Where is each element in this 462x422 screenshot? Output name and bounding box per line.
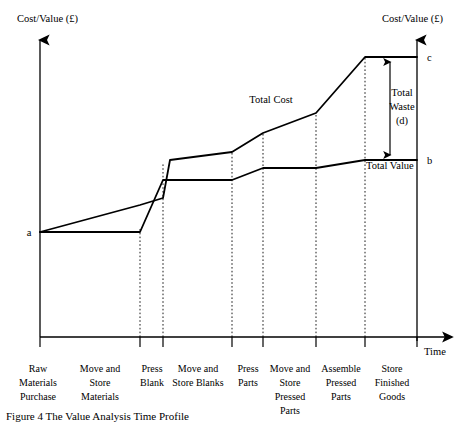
chart-canvas: Cost/Value (£) Cost/Value (£) Time a b c… bbox=[0, 0, 462, 422]
figure-caption: Figure 4 The Value Analysis Time Profile bbox=[6, 410, 189, 422]
x-label-line: Store bbox=[279, 377, 301, 388]
x-label-move-and-store-materials: Move and Store Materials bbox=[80, 363, 120, 402]
total-cost-label: Total Cost bbox=[249, 94, 292, 105]
marker-c: c bbox=[427, 52, 432, 63]
marker-b: b bbox=[427, 155, 432, 166]
x-label-move-and-store-blanks: Move and Store Blanks bbox=[172, 363, 223, 388]
total-waste-label-line1: Total bbox=[391, 87, 413, 98]
x-label-assemble-pressed-parts: Assemble Pressed Parts bbox=[321, 363, 361, 402]
x-label-line: Press bbox=[237, 363, 258, 374]
x-label-line: Assemble bbox=[321, 363, 361, 374]
x-label-line: Blank bbox=[140, 377, 164, 388]
x-label-line: Parts bbox=[280, 405, 300, 416]
x-label-move-and-store-pressed-parts: Move and Store Pressed Parts bbox=[270, 363, 310, 416]
value-analysis-time-profile-figure: Cost/Value (£) Cost/Value (£) Time a b c… bbox=[0, 0, 462, 422]
x-axis-title: Time bbox=[424, 346, 446, 357]
marker-a: a bbox=[27, 227, 32, 238]
x-label-line: Move and bbox=[270, 363, 310, 374]
total-waste-label-line2: Waste bbox=[389, 101, 415, 112]
x-label-press-blank: Press Blank bbox=[140, 363, 164, 388]
x-label-raw-materials-purchase: Raw Materials Purchase bbox=[19, 363, 57, 402]
x-label-line: Materials bbox=[81, 391, 119, 402]
x-label-line: Pressed bbox=[326, 377, 357, 388]
x-axis-ticks bbox=[40, 337, 417, 347]
x-label-line: Move and bbox=[80, 363, 120, 374]
x-label-line: Store bbox=[381, 363, 403, 374]
total-cost-line bbox=[40, 57, 417, 232]
x-label-store-finished-goods: Store Finished Goods bbox=[375, 363, 409, 402]
y-axis-left-title: Cost/Value (£) bbox=[17, 13, 78, 25]
x-axis-category-labels: Raw Materials Purchase Move and Store Ma… bbox=[19, 363, 409, 416]
x-label-line: Goods bbox=[379, 391, 405, 402]
x-label-line: Parts bbox=[331, 391, 351, 402]
x-label-line: Pressed bbox=[275, 391, 306, 402]
total-value-line bbox=[40, 160, 417, 232]
x-label-line: Finished bbox=[375, 377, 409, 388]
y-axis-right-title: Cost/Value (£) bbox=[382, 13, 443, 25]
x-label-line: Store bbox=[89, 377, 111, 388]
x-label-line: Press bbox=[141, 363, 162, 374]
x-label-line: Move and bbox=[178, 363, 218, 374]
x-label-line: Materials bbox=[19, 377, 57, 388]
x-label-line: Purchase bbox=[20, 391, 57, 402]
total-value-label: Total Value bbox=[366, 160, 414, 171]
total-waste-label-line3: (d) bbox=[396, 115, 409, 127]
x-label-line: Parts bbox=[238, 377, 258, 388]
x-label-line: Raw bbox=[29, 363, 48, 374]
x-label-line: Store Blanks bbox=[172, 377, 223, 388]
x-label-press-parts: Press Parts bbox=[237, 363, 258, 388]
